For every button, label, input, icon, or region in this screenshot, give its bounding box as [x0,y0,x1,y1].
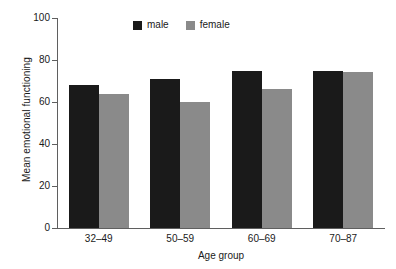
y-axis-tick-label-wrap: 100 [0,13,50,23]
y-axis-tick-label: 40 [4,139,50,149]
legend-label-male: male [147,20,169,30]
y-axis-tick-label: 0 [4,223,50,233]
bar-male-32–49 [69,85,99,228]
x-axis-spine [57,228,385,229]
y-axis-tick [52,186,57,187]
x-axis-tick-label: 60–69 [221,233,303,245]
y-axis-tick-label-wrap: 60 [0,97,50,107]
y-axis-tick [52,60,57,61]
y-axis-tick [52,18,57,19]
x-axis-tick-label: 50–59 [140,233,222,245]
x-axis-title: Age group [58,250,384,261]
y-axis-tick [52,144,57,145]
bar-male-60–69 [232,71,262,229]
bar-female-32–49 [99,94,129,228]
plot-area [58,18,384,228]
bar-chart: Mean emotional functioning 020406080100 … [0,0,396,269]
y-axis-tick [52,102,57,103]
chart-legend: malefemale [133,20,230,30]
bar-male-70–87 [313,71,343,229]
y-axis-tick-label-wrap: 80 [0,55,50,65]
bar-male-50–59 [150,79,180,228]
y-axis-tick-label-wrap: 0 [0,223,50,233]
bar-female-70–87 [343,72,373,228]
y-axis-tick-label: 20 [4,181,50,191]
bar-female-60–69 [262,89,292,228]
x-axis-tick-label: 32–49 [58,233,140,245]
legend-label-female: female [200,20,230,30]
y-axis-tick-label-wrap: 20 [0,181,50,191]
bar-female-50–59 [180,102,210,228]
legend-swatch-female [186,21,195,30]
y-axis-tick-label: 80 [4,55,50,65]
y-axis-tick-label: 100 [4,13,50,23]
y-axis-tick-label: 60 [4,97,50,107]
legend-item-female: female [186,20,230,30]
x-axis-tick-label: 70–87 [303,233,385,245]
y-axis-tick-label-wrap: 40 [0,139,50,149]
legend-item-male: male [133,20,169,30]
legend-swatch-male [133,21,142,30]
y-axis-tick [52,228,57,229]
